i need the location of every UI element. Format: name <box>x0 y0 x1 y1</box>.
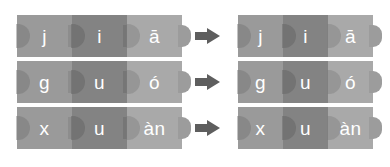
puzzle-piece-initial-row2[interactable]: g <box>17 61 72 103</box>
piece-label: j <box>17 15 78 57</box>
assembled-segment-final: ó <box>328 61 373 103</box>
right-arrow-icon-row3 <box>195 120 221 136</box>
piece-label: àn <box>328 107 373 149</box>
piece-label: i <box>72 15 133 57</box>
arrow-head <box>207 120 220 136</box>
puzzle-piece-medial-row3[interactable]: u <box>72 107 127 149</box>
assembled-segment-final: ā <box>328 15 373 57</box>
puzzle-piece-initial-row1[interactable]: j <box>17 15 72 57</box>
puzzle-diagram: j i ā j i ā g <box>0 0 390 167</box>
puzzle-piece-medial-row1[interactable]: i <box>72 15 127 57</box>
piece-label: g <box>17 61 78 103</box>
assembled-segment-medial: i <box>283 15 328 57</box>
right-arrow-icon-row1 <box>195 28 221 44</box>
piece-label: àn <box>127 107 188 149</box>
piece-label: ā <box>328 15 373 57</box>
assembled-segment-final: àn <box>328 107 373 149</box>
assembled-segment-initial: g <box>238 61 283 103</box>
piece-label: x <box>238 107 283 149</box>
piece-label: x <box>17 107 78 149</box>
puzzle-piece-medial-row2[interactable]: u <box>72 61 127 103</box>
piece-label: i <box>283 15 328 57</box>
piece-label: u <box>72 61 133 103</box>
piece-label: j <box>238 15 283 57</box>
assembled-segment-medial: u <box>283 107 328 149</box>
piece-label: g <box>238 61 283 103</box>
assembled-syllable-row2[interactable]: g u ó <box>238 61 373 103</box>
piece-label: u <box>283 107 328 149</box>
piece-label: ā <box>127 15 188 57</box>
puzzle-piece-final-row2[interactable]: ó <box>127 61 182 103</box>
assembled-segment-initial: x <box>238 107 283 149</box>
piece-label: u <box>72 107 133 149</box>
piece-label: ó <box>127 61 188 103</box>
assembled-segment-initial: j <box>238 15 283 57</box>
piece-label: ó <box>328 61 373 103</box>
arrow-head <box>207 74 220 90</box>
puzzle-piece-final-row1[interactable]: ā <box>127 15 182 57</box>
arrow-head <box>207 28 220 44</box>
piece-label: u <box>283 61 328 103</box>
puzzle-piece-final-row3[interactable]: àn <box>127 107 182 149</box>
assembled-syllable-row3[interactable]: x u àn <box>238 107 373 149</box>
assembled-syllable-row1[interactable]: j i ā <box>238 15 373 57</box>
right-arrow-icon-row2 <box>195 74 221 90</box>
puzzle-piece-initial-row3[interactable]: x <box>17 107 72 149</box>
assembled-segment-medial: u <box>283 61 328 103</box>
